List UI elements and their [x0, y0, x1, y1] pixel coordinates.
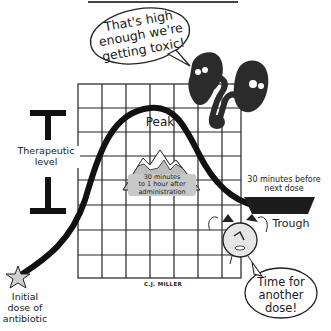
- peak-label: Peak: [140, 116, 180, 130]
- bubble-line: dose!: [250, 302, 312, 315]
- label-line: level: [12, 157, 80, 168]
- initial-dose-label: Initial dose of antibiotic: [0, 292, 50, 325]
- label-line: antibiotic: [0, 314, 50, 325]
- alarm-clock-icon: [209, 214, 268, 264]
- artist-signature: C.J. MILLER: [138, 281, 188, 287]
- trough-platform-icon: [244, 197, 315, 214]
- trough-label: Trough: [266, 218, 316, 231]
- peak-note: 30 minutes to 1 hour after administratio…: [128, 174, 196, 196]
- bacteria-characters-icon: [188, 52, 268, 129]
- therapeutic-level-label: Therapeutic level: [12, 146, 80, 168]
- note-line: administration: [128, 189, 196, 196]
- label-line: next dose: [240, 184, 328, 193]
- clock-bubble-text: Time for another dose!: [250, 276, 312, 316]
- label-line: 30 minutes before: [240, 175, 328, 184]
- before-next-dose-label: 30 minutes before next dose: [240, 175, 328, 193]
